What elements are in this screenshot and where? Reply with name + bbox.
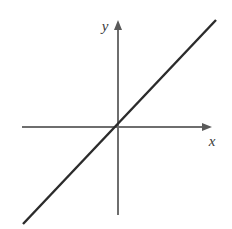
y-axis-arrow-icon [114, 20, 122, 30]
figure-root: y x [0, 0, 232, 229]
x-axis-label: x [208, 133, 216, 149]
graph-canvas: y x [0, 0, 232, 229]
identity-line [23, 20, 216, 224]
x-axis-arrow-icon [202, 123, 212, 131]
y-axis-label: y [100, 18, 109, 34]
